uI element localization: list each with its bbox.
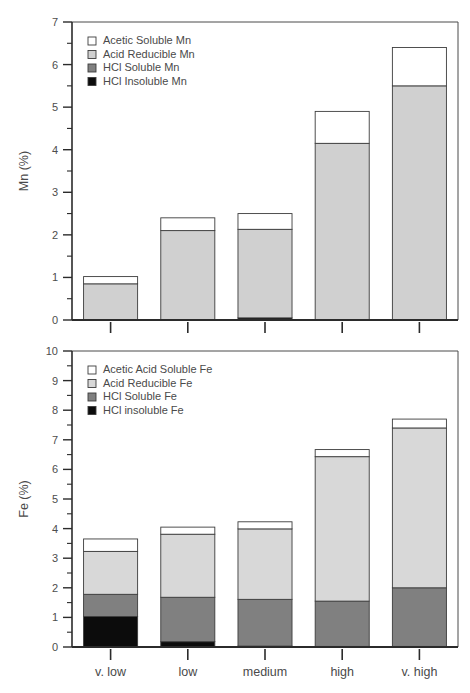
y-tick-label: 1 bbox=[52, 611, 58, 623]
bar-segment-reducible_mn[interactable] bbox=[392, 86, 446, 320]
y-tick-label: 3 bbox=[52, 552, 58, 564]
x-category-label: v. high bbox=[401, 665, 437, 679]
bar-segment-acetic[interactable] bbox=[315, 111, 369, 143]
bar-segment-hcl_soluble[interactable] bbox=[315, 601, 369, 646]
bar-stack-high[interactable] bbox=[315, 450, 369, 648]
legend-label: Acetic Soluble Mn bbox=[103, 34, 191, 46]
bar-segment-hcl_soluble[interactable] bbox=[392, 588, 446, 647]
y-tick-label: 0 bbox=[52, 641, 58, 653]
bar-stack-v-low[interactable] bbox=[84, 277, 138, 320]
x-category-label: high bbox=[330, 665, 354, 679]
bar-stack-high[interactable] bbox=[315, 111, 369, 320]
y-tick-label: 5 bbox=[52, 101, 58, 113]
bar-segment-hcl_soluble[interactable] bbox=[84, 594, 138, 616]
y-tick-label: 6 bbox=[52, 59, 58, 71]
bar-segment-hcl_soluble[interactable] bbox=[238, 599, 292, 646]
fe-chart-svg: 012345678910v. lowlowmediumhighv. highFe… bbox=[0, 340, 470, 693]
legend-label: Acetic Acid Soluble Fe bbox=[103, 363, 212, 375]
y-tick-label: 7 bbox=[52, 16, 58, 28]
x-category-label: medium bbox=[243, 665, 287, 679]
bar-stack-medium[interactable] bbox=[238, 522, 292, 647]
bar-segment-reducible_fe[interactable] bbox=[315, 457, 369, 601]
bar-stack-v-high[interactable] bbox=[392, 419, 446, 647]
bar-segment-acetic[interactable] bbox=[84, 539, 138, 551]
bar-segment-acetic[interactable] bbox=[315, 450, 369, 457]
y-tick-label: 10 bbox=[46, 345, 58, 357]
bar-segment-acetic[interactable] bbox=[161, 218, 215, 231]
stacked-bar-figure: 01234567Mn (%)Acetic Soluble MnAcid Redu… bbox=[0, 0, 470, 693]
legend-label: HCl insoluble Fe bbox=[103, 404, 184, 416]
x-category-label: low bbox=[178, 665, 198, 679]
bar-segment-acetic[interactable] bbox=[238, 522, 292, 529]
fe-chart-panel: 012345678910v. lowlowmediumhighv. highFe… bbox=[0, 340, 470, 693]
y-tick-label: 4 bbox=[52, 144, 58, 156]
y-tick-label: 2 bbox=[52, 229, 58, 241]
bar-segment-reducible_mn[interactable] bbox=[161, 231, 215, 320]
bar-stack-medium[interactable] bbox=[238, 214, 292, 320]
bar-stack-low[interactable] bbox=[161, 218, 215, 320]
y-tick-label: 6 bbox=[52, 463, 58, 475]
bar-segment-acetic[interactable] bbox=[392, 419, 446, 428]
x-category-label: v. low bbox=[95, 665, 127, 679]
y-tick-label: 1 bbox=[52, 271, 58, 283]
legend-swatch bbox=[88, 78, 96, 86]
bar-segment-hcl_soluble[interactable] bbox=[161, 597, 215, 641]
legend-swatch bbox=[88, 407, 96, 415]
legend-label: Acid Reducible Mn bbox=[103, 48, 195, 60]
bar-segment-reducible_mn[interactable] bbox=[238, 229, 292, 318]
y-axis-title: Fe (%) bbox=[17, 480, 31, 518]
legend-label: HCl Insoluble Mn bbox=[103, 75, 187, 87]
y-tick-label: 7 bbox=[52, 434, 58, 446]
bar-segment-hcl_insoluble[interactable] bbox=[84, 617, 138, 647]
legend-swatch bbox=[88, 366, 96, 374]
mn-chart-panel: 01234567Mn (%)Acetic Soluble MnAcid Redu… bbox=[0, 0, 470, 345]
bar-segment-reducible_fe[interactable] bbox=[392, 428, 446, 588]
y-tick-label: 4 bbox=[52, 523, 58, 535]
legend-label: Acid Reducible Fe bbox=[103, 377, 192, 389]
bar-stack-v-low[interactable] bbox=[84, 539, 138, 647]
bar-segment-acetic[interactable] bbox=[392, 48, 446, 86]
bar-segment-acetic[interactable] bbox=[84, 277, 138, 284]
legend-swatch bbox=[88, 380, 96, 388]
bar-segment-reducible_mn[interactable] bbox=[84, 284, 138, 320]
chart-legend: Acetic Soluble MnAcid Reducible MnHCl So… bbox=[88, 34, 195, 87]
mn-chart-svg: 01234567Mn (%)Acetic Soluble MnAcid Redu… bbox=[0, 0, 470, 345]
bar-segment-acetic[interactable] bbox=[238, 214, 292, 230]
y-tick-label: 8 bbox=[52, 404, 58, 416]
bar-stack-v-high[interactable] bbox=[392, 48, 446, 320]
legend-swatch bbox=[88, 393, 96, 401]
y-tick-label: 0 bbox=[52, 314, 58, 326]
y-tick-label: 5 bbox=[52, 493, 58, 505]
y-tick-label: 2 bbox=[52, 582, 58, 594]
bar-segment-reducible_mn[interactable] bbox=[315, 143, 369, 320]
bar-segment-reducible_fe[interactable] bbox=[161, 534, 215, 597]
bar-stack-low[interactable] bbox=[161, 527, 215, 647]
legend-label: HCl Soluble Mn bbox=[103, 61, 179, 73]
legend-swatch bbox=[88, 51, 96, 59]
y-tick-label: 3 bbox=[52, 186, 58, 198]
bar-segment-reducible_fe[interactable] bbox=[238, 529, 292, 599]
legend-swatch bbox=[88, 64, 96, 72]
y-tick-label: 9 bbox=[52, 375, 58, 387]
legend-label: HCl Soluble Fe bbox=[103, 390, 177, 402]
bar-segment-reducible_fe[interactable] bbox=[84, 551, 138, 594]
y-axis-title: Mn (%) bbox=[17, 151, 31, 191]
bar-segment-acetic[interactable] bbox=[161, 527, 215, 534]
chart-legend: Acetic Acid Soluble FeAcid Reducible FeH… bbox=[88, 363, 212, 416]
legend-swatch bbox=[88, 37, 96, 45]
